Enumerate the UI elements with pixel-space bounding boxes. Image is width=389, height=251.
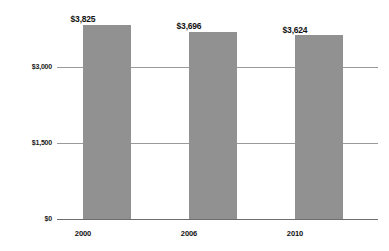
bar-2010 bbox=[295, 35, 343, 219]
bar-2006 bbox=[189, 32, 237, 219]
bar-value-2000: $3,825 bbox=[59, 14, 107, 24]
ytick-label-1500: $1,500 bbox=[4, 139, 52, 147]
ytick-label-0: $0 bbox=[4, 215, 52, 223]
bar-2000 bbox=[83, 25, 131, 219]
bar-value-2010: $3,624 bbox=[271, 25, 319, 35]
category-label-2000: 2000 bbox=[59, 229, 107, 238]
bar-value-2006: $3,696 bbox=[165, 21, 213, 31]
ytick-label-3000: $3,000 bbox=[4, 63, 52, 71]
plot-area bbox=[57, 14, 378, 220]
category-label-2006: 2006 bbox=[165, 229, 213, 238]
category-label-2010: 2010 bbox=[271, 229, 319, 238]
axis-baseline-0 bbox=[57, 219, 378, 220]
bar-chart: $3,000 $1,500 $0 $3,825 $3,696 $3,624 20… bbox=[0, 0, 389, 251]
